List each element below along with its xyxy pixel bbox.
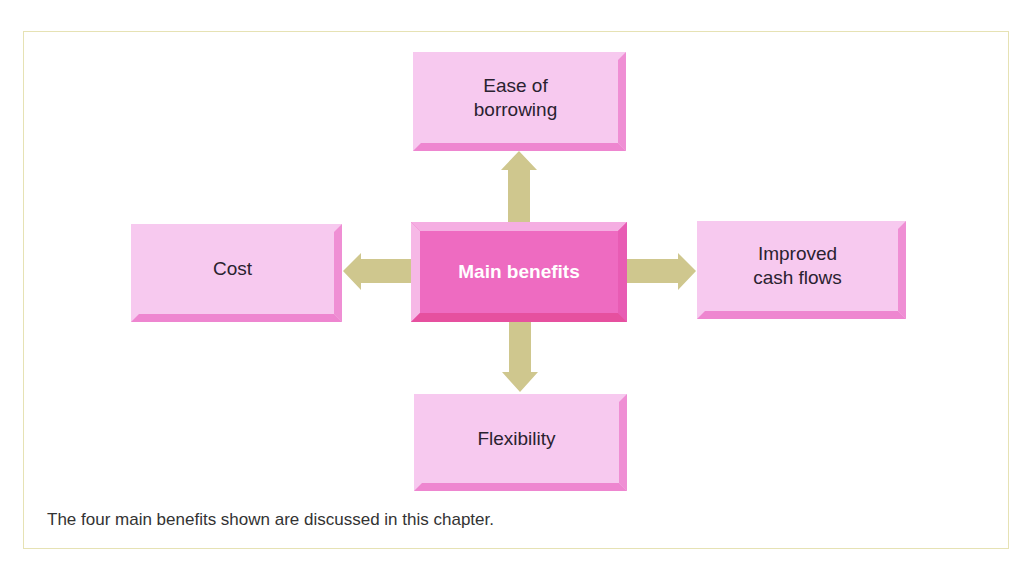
bevel [411,313,627,322]
bevel [898,221,906,319]
node-label: Flexibility [477,427,563,459]
node-improved-cash-flows: Improved cash flows [697,221,906,319]
node-main-benefits: Main benefits [411,222,627,322]
bevel [131,314,342,322]
node-label: Ease of borrowing [474,74,565,130]
bevel [411,222,627,231]
node-label: Improved cash flows [753,242,850,298]
bevel [413,143,626,151]
figure-caption: The four main benefits shown are discuss… [47,510,494,530]
bevel [414,483,627,491]
bevel [618,222,627,322]
center-label: Main benefits [458,260,579,284]
bevel [411,222,420,322]
bevel [619,394,627,491]
node-ease-of-borrowing: Ease of borrowing [413,52,626,151]
bevel [618,52,626,151]
bevel [697,311,906,319]
node-cost: Cost [131,224,342,322]
node-flexibility: Flexibility [414,394,627,491]
bevel [334,224,342,322]
node-label: Cost [213,257,260,289]
